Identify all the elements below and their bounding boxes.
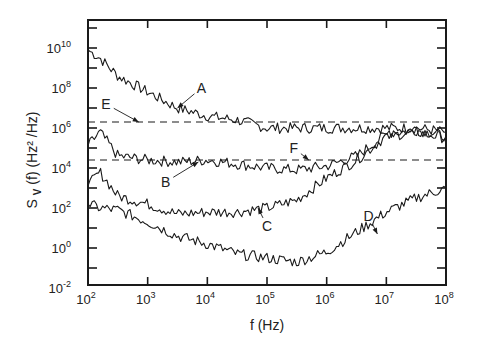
y-tick-label: 1010 <box>47 39 71 56</box>
y-tick-label: 104 <box>52 159 71 176</box>
y-axis-title-symbol: S <box>24 199 40 208</box>
curve-annotations: AEFBCD <box>101 80 377 234</box>
curve-label-b: B <box>161 174 170 190</box>
arrowhead-icon <box>132 117 138 122</box>
svg-text:S V (f) (Hz² /Hz): S V (f) (Hz² /Hz) <box>24 112 43 209</box>
y-axis-ticks: 10-21001021041061081010 <box>47 28 446 296</box>
x-tick-label: 104 <box>196 290 215 307</box>
curve-label-c: C <box>262 218 272 234</box>
y-tick-label: 106 <box>52 119 71 136</box>
x-tick-label: 102 <box>76 290 95 307</box>
curve-label-e: E <box>101 96 110 112</box>
curve-c <box>88 127 446 217</box>
y-axis-title: S V (f) (Hz² /Hz) <box>24 112 43 209</box>
arrowhead-icon <box>373 228 378 234</box>
plot-frame <box>88 20 446 285</box>
y-tick-label: 108 <box>52 79 71 96</box>
x-tick-label: 105 <box>255 290 274 307</box>
y-tick-label: 102 <box>52 199 71 216</box>
x-tick-label: 103 <box>136 290 155 307</box>
x-tick-label: 107 <box>375 290 394 307</box>
curve-label-d: D <box>363 208 373 224</box>
y-tick-label: 100 <box>52 239 71 256</box>
curve-label-f: F <box>290 140 299 156</box>
spectral-density-chart: AEFBCD 10-21001021041061081010 102103104… <box>0 0 478 345</box>
x-tick-label: 106 <box>315 290 334 307</box>
curve-label-a: A <box>197 80 207 96</box>
x-tick-label: 108 <box>434 290 453 307</box>
x-axis-title: f (Hz) <box>250 317 284 333</box>
y-tick-label: 10-2 <box>49 279 71 296</box>
